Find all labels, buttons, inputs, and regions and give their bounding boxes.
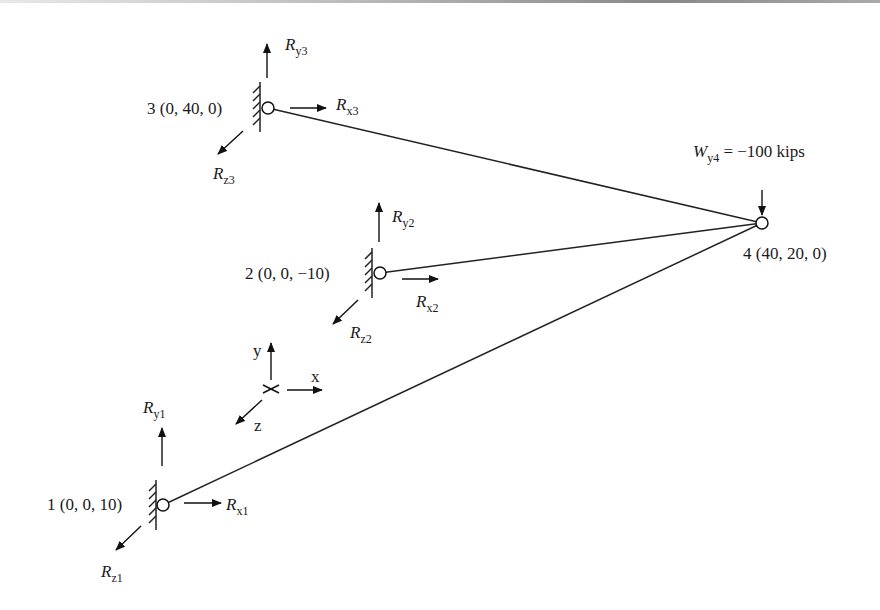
reaction-arrow-z2 [333,300,358,324]
reaction-label-y1: Ry1 [142,398,165,421]
node-1 [157,499,169,511]
axis-label-z: z [254,416,262,435]
reaction-label-y2: Ry2 [391,207,414,230]
member-2-4 [380,223,762,273]
reaction-label-z1: Rz1 [100,562,123,585]
reaction-arrow-z1 [116,526,141,550]
node-4 [756,217,768,229]
support-node-3 [218,44,326,154]
reaction-arrow-z3 [218,131,243,154]
support-node-1 [116,428,221,550]
reaction-label-z3: Rz3 [212,164,235,187]
reaction-label-z2: Rz2 [349,323,372,346]
node-label-3: 3 (0, 40, 0) [147,99,222,118]
node-label-2: 2 (0, 0, −10) [245,264,330,283]
load-label-w4: Wy4 = −100 kips [693,142,805,165]
axis-label-x: x [311,367,320,386]
reaction-label-x3: Rx3 [335,95,358,118]
node-label-4: 4 (40, 20, 0) [743,244,827,263]
axis-label-y: y [253,341,262,360]
reaction-label-x2: Rx2 [415,292,438,315]
node-3 [262,102,274,114]
node-label-1: 1 (0, 0, 10) [47,495,122,514]
truss-members [163,108,762,505]
coordinate-axes [236,343,322,424]
reaction-label-x1: Rx1 [225,495,248,518]
node-2 [374,267,386,279]
reaction-label-y3: Ry3 [284,35,307,58]
space-truss-diagram: 3 (0, 40, 0) 2 (0, 0, −10) 1 (0, 0, 10) … [0,0,880,610]
member-3-4 [268,108,762,223]
loaded-node-4 [756,190,768,229]
